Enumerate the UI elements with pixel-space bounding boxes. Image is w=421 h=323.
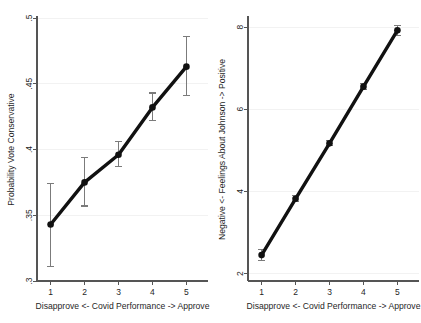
y-tick-label-left-4: .5 — [24, 14, 34, 21]
panel-feelings-about-johnson: 246812345Negative <- Feelings About John… — [211, 0, 421, 323]
x-axis-title-left: Disapprove <- Covid Performance -> Appro… — [36, 301, 210, 311]
data-point-left-1 — [81, 179, 88, 186]
data-point-right-4 — [394, 27, 401, 34]
x-tick-label-right-2: 3 — [327, 287, 332, 297]
panel-probability-vote-conservative: .3.35.4.45.512345Probability Vote Conser… — [0, 0, 210, 323]
data-point-left-2 — [115, 151, 122, 158]
x-tick-label-right-1: 2 — [293, 287, 298, 297]
x-tick-label-left-3: 4 — [150, 287, 155, 297]
two-panel-figure: .3.35.4.45.512345Probability Vote Conser… — [0, 0, 421, 323]
x-axis-title-right: Disapprove <- Covid Performance -> Appro… — [247, 301, 421, 311]
data-point-left-0 — [47, 221, 54, 228]
y-axis-title-right: Negative <- Feelings About Johnson -> Po… — [217, 59, 227, 240]
data-point-left-4 — [183, 63, 190, 70]
x-tick-label-left-1: 2 — [82, 287, 87, 297]
data-point-right-3 — [360, 83, 367, 90]
data-point-right-1 — [292, 196, 299, 203]
plot-area-right: 246812345Negative <- Feelings About John… — [211, 0, 421, 323]
y-tick-label-left-0: .3 — [24, 277, 34, 284]
y-tick-label-right-0: 2 — [235, 271, 245, 276]
y-tick-label-left-1: .35 — [24, 209, 34, 221]
x-tick-label-right-3: 4 — [361, 287, 366, 297]
y-tick-label-right-3: 8 — [235, 24, 245, 29]
y-tick-label-left-3: .45 — [24, 78, 34, 90]
x-tick-label-right-0: 1 — [259, 287, 264, 297]
plot-area-left: .3.35.4.45.512345Probability Vote Conser… — [0, 0, 210, 323]
y-tick-label-right-2: 6 — [235, 107, 245, 112]
data-point-left-3 — [149, 104, 156, 111]
data-point-right-0 — [258, 252, 265, 259]
y-tick-label-right-1: 4 — [235, 189, 245, 194]
y-tick-label-left-2: .4 — [24, 146, 34, 153]
x-tick-label-left-2: 3 — [116, 287, 121, 297]
x-tick-label-left-0: 1 — [48, 287, 53, 297]
x-tick-label-left-4: 5 — [184, 287, 189, 297]
data-point-right-2 — [326, 140, 333, 147]
y-axis-title-left: Probability Vote Conservative — [6, 93, 16, 205]
x-tick-label-right-4: 5 — [395, 287, 400, 297]
